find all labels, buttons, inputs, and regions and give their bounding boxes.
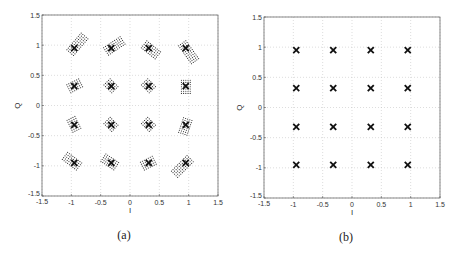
x-tick-label: 1 bbox=[187, 199, 191, 206]
constellation-point-marker bbox=[71, 83, 77, 89]
y-tick-label: 1 bbox=[258, 44, 262, 51]
y-tick-label: 0 bbox=[258, 104, 262, 111]
sample-cluster bbox=[66, 32, 89, 56]
constellation-point-marker bbox=[330, 124, 336, 130]
constellation-point-marker bbox=[108, 122, 114, 128]
constellation-point-marker bbox=[293, 47, 299, 53]
constellation-point-marker bbox=[146, 83, 152, 89]
x-tick-label: -1 bbox=[68, 199, 74, 206]
constellation-point-marker bbox=[108, 83, 114, 89]
y-tick-label: -0.5 bbox=[250, 134, 262, 141]
constellation-point-marker bbox=[405, 124, 411, 130]
y-tick-label: 1 bbox=[36, 42, 40, 49]
x-tick-label: 1 bbox=[409, 201, 413, 208]
chart-panel-b: -1.5-1-0.500.511.5-1.5-1-0.500.511.5IQ bbox=[235, 14, 445, 218]
y-tick-label: 0.5 bbox=[30, 72, 40, 79]
y-axis-label: Q bbox=[235, 104, 244, 110]
y-tick-label: 0.5 bbox=[252, 74, 262, 81]
constellation-point-marker bbox=[330, 47, 336, 53]
constellation-point-marker bbox=[108, 45, 114, 51]
sample-cluster bbox=[171, 155, 194, 178]
constellation-point-marker bbox=[368, 162, 374, 168]
constellation-point-marker bbox=[293, 85, 299, 91]
x-tick-label: 1.5 bbox=[435, 201, 445, 208]
y-tick-label: -1 bbox=[256, 164, 262, 171]
y-tick-label: 1.5 bbox=[30, 12, 40, 19]
constellation-point-marker bbox=[71, 160, 77, 166]
constellation-point-marker bbox=[108, 160, 114, 166]
y-tick-label: -1 bbox=[34, 162, 40, 169]
y-tick-label: 0 bbox=[36, 102, 40, 109]
x-tick-label: 0.5 bbox=[154, 199, 164, 206]
x-tick-label: 0 bbox=[350, 201, 354, 208]
constellation-point-marker bbox=[368, 47, 374, 53]
x-tick-label: -0.5 bbox=[95, 199, 107, 206]
constellation-point-marker bbox=[293, 124, 299, 130]
x-axis-label: I bbox=[129, 206, 131, 215]
constellation-point-marker bbox=[146, 45, 152, 51]
x-axis-label: I bbox=[351, 208, 353, 217]
x-tick-label: 1.5 bbox=[213, 199, 223, 206]
chart-panel-a: -1.5-1-0.500.511.5-1.5-1-0.500.511.5IQ bbox=[13, 12, 223, 216]
caption-a: (a) bbox=[117, 228, 130, 242]
y-tick-label: -1.5 bbox=[250, 192, 262, 199]
x-tick-label: -1 bbox=[290, 201, 296, 208]
y-axis-label: Q bbox=[13, 102, 22, 108]
x-tick-label: 0 bbox=[128, 199, 132, 206]
y-tick-label: -1.5 bbox=[28, 190, 40, 197]
constellation-point-marker bbox=[368, 85, 374, 91]
y-tick-label: 1.5 bbox=[252, 14, 262, 21]
constellation-point-marker bbox=[405, 85, 411, 91]
caption-b: (b) bbox=[339, 230, 353, 244]
x-tick-label: -1.5 bbox=[258, 200, 270, 207]
x-tick-label: -1.5 bbox=[36, 198, 48, 205]
constellation-point-marker bbox=[183, 45, 189, 51]
y-tick-label: -0.5 bbox=[28, 132, 40, 139]
constellation-point-marker bbox=[405, 47, 411, 53]
constellation-point-marker bbox=[330, 85, 336, 91]
constellation-point-marker bbox=[146, 160, 152, 166]
constellation-point-marker bbox=[183, 160, 189, 166]
constellation-point-marker bbox=[330, 162, 336, 168]
figure: -1.5-1-0.500.511.5-1.5-1-0.500.511.5IQ -… bbox=[0, 0, 461, 255]
constellation-point-marker bbox=[146, 122, 152, 128]
x-tick-label: 0.5 bbox=[376, 201, 386, 208]
constellation-point-marker bbox=[293, 162, 299, 168]
x-tick-label: -0.5 bbox=[317, 201, 329, 208]
constellation-point-marker bbox=[368, 124, 374, 130]
constellation-point-marker bbox=[71, 45, 77, 51]
constellation-point-marker bbox=[405, 162, 411, 168]
